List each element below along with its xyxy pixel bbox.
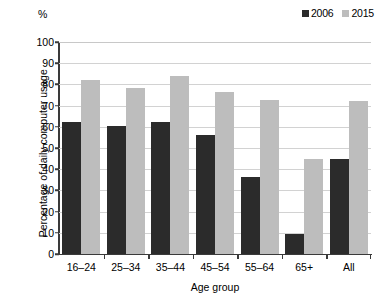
legend-swatch-2006 [302, 10, 309, 17]
bar-group [59, 42, 104, 254]
bar-group [282, 42, 327, 254]
bar-2015-35–44[interactable] [170, 76, 189, 254]
x-axis-tick-mark [148, 254, 150, 259]
x-axis-tick-label: 35–44 [148, 262, 193, 273]
y-axis-tick-label: 50 [42, 143, 54, 154]
bar-2006-65+[interactable] [285, 234, 304, 254]
bar-2006-25–34[interactable] [107, 126, 126, 254]
bar-groups [59, 42, 371, 254]
bar-group [104, 42, 149, 254]
bar-2015-All[interactable] [349, 101, 368, 254]
x-axis-tick-mark [237, 254, 239, 259]
bar-2006-16–24[interactable] [62, 122, 81, 255]
x-axis-title: Age group [59, 282, 371, 293]
y-axis-tick-label: 80 [42, 79, 54, 90]
y-axis-tick-label: 10 [42, 228, 54, 239]
legend-item-2015: 2015 [342, 8, 374, 19]
x-axis-tick-mark [193, 254, 195, 259]
bar-2015-55–64[interactable] [260, 100, 279, 254]
x-axis-tick-label: 55–64 [237, 262, 282, 273]
x-axis-tick-label: 16–24 [59, 262, 104, 273]
y-axis-tick-label: 90 [42, 58, 54, 69]
y-axis-tick-label: 60 [42, 122, 54, 133]
bar-2015-65+[interactable] [304, 159, 323, 254]
legend-label-2015: 2015 [351, 8, 374, 19]
x-axis-tick-mark [282, 254, 284, 259]
bar-group [148, 42, 193, 254]
y-axis-tick-label: 0 [48, 249, 54, 260]
plot-area: 1009080706050403020100 [59, 42, 371, 254]
bar-2006-55–64[interactable] [241, 177, 260, 254]
x-axis-tick-label: All [326, 262, 371, 273]
bar-2015-25–34[interactable] [126, 88, 145, 254]
legend-swatch-2015 [342, 10, 349, 17]
y-axis-tick-label: 40 [42, 164, 54, 175]
y-axis-tick-label: 20 [42, 206, 54, 217]
x-axis-tick-mark [370, 254, 372, 259]
x-axis-tick-label: 45–54 [193, 262, 238, 273]
bar-2015-16–24[interactable] [81, 80, 100, 254]
y-axis-tick-label: 100 [36, 37, 54, 48]
legend-label-2006: 2006 [311, 8, 334, 19]
x-axis-tick-mark [104, 254, 106, 259]
bar-group [237, 42, 282, 254]
y-axis-tick-label: 70 [42, 100, 54, 111]
legend-item-2006: 2006 [302, 8, 334, 19]
bar-2015-45–54[interactable] [215, 92, 234, 254]
bar-2006-All[interactable] [330, 159, 349, 254]
y-axis-unit-label: % [38, 9, 47, 20]
chart-legend: 2006 2015 [302, 8, 374, 19]
bar-group [326, 42, 371, 254]
x-axis-tick-label: 65+ [282, 262, 327, 273]
bar-chart: 2006 2015 % Percentage of daily computer… [0, 0, 380, 303]
x-axis-tick-labels: 16–2425–3435–4445–5455–6465+All [59, 262, 371, 273]
x-axis-tick-label: 25–34 [104, 262, 149, 273]
bar-group [193, 42, 238, 254]
bar-2006-45–54[interactable] [196, 135, 215, 254]
bar-2006-35–44[interactable] [151, 122, 170, 255]
x-axis-tick-mark [326, 254, 328, 259]
y-axis-tick-label: 30 [42, 185, 54, 196]
